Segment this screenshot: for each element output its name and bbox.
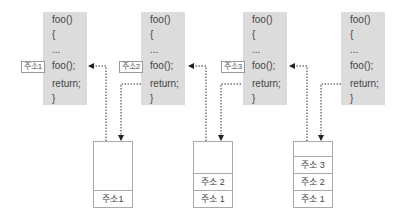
return-arrow-1	[89, 66, 106, 141]
push-arrow-3	[321, 84, 341, 140]
push-arrow-2	[221, 84, 241, 140]
return-arrow-2	[189, 66, 206, 141]
return-arrow-3	[290, 66, 307, 141]
connector-arrows	[0, 0, 403, 221]
push-arrow-1	[121, 84, 141, 140]
